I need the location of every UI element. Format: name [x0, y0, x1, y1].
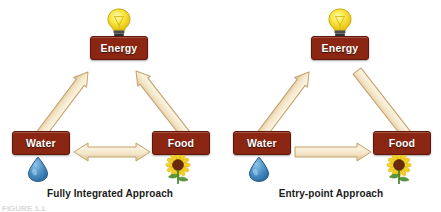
- panel-entry-point: Energy Water Food: [221, 0, 441, 212]
- arrow-bidirectional-shape: [74, 143, 150, 161]
- clipped-figure-caption: FIGURE 1.1: [2, 204, 46, 211]
- nexus-figure: Energy Water Food: [0, 0, 441, 212]
- sunflower-icon: [384, 155, 414, 185]
- node-energy[interactable]: Energy: [311, 36, 369, 60]
- node-water[interactable]: Water: [12, 131, 70, 155]
- lightbulb-icon: [105, 7, 133, 38]
- panel-caption-entry-point: Entry-point Approach: [221, 188, 441, 199]
- node-energy-label: Energy: [101, 43, 138, 54]
- panel-fully-integrated: Energy Water Food: [0, 0, 220, 212]
- panel-caption-fully-integrated: Fully Integrated Approach: [0, 188, 220, 199]
- water-drop-icon: [248, 156, 270, 182]
- node-water-label: Water: [26, 138, 56, 149]
- sunflower-icon: [163, 155, 193, 185]
- node-water[interactable]: Water: [233, 131, 291, 155]
- node-water-label: Water: [247, 138, 277, 149]
- node-food[interactable]: Food: [373, 131, 431, 155]
- arrow-unidirectional-shape: [295, 143, 371, 161]
- water-drop-icon: [27, 156, 49, 182]
- node-food-label: Food: [389, 138, 415, 149]
- node-food[interactable]: Food: [152, 131, 210, 155]
- lightbulb-icon: [326, 7, 354, 38]
- node-energy-label: Energy: [322, 43, 359, 54]
- arrow-water-food: [74, 143, 150, 161]
- arrow-water-food: [295, 143, 371, 161]
- node-food-label: Food: [168, 138, 194, 149]
- node-energy[interactable]: Energy: [90, 36, 148, 60]
